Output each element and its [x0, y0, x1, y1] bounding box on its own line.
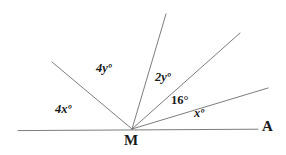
baseline-ray [18, 129, 258, 130]
geometry-diagram: 4yº 2yº 16° xº 4xº M A [0, 0, 286, 155]
angle-label-16: 16° [171, 94, 189, 107]
vertex-label-m: M [124, 133, 138, 148]
geometry-figure [0, 0, 286, 155]
angle-label-4x: 4xº [55, 103, 71, 116]
angle-label-4y: 4yº [96, 62, 112, 75]
ray-mid-right [132, 33, 240, 129]
point-label-a: A [262, 119, 273, 134]
angle-label-x: xº [194, 107, 204, 120]
ray-left-upper [52, 62, 132, 129]
angle-label-2y: 2yº [155, 71, 171, 84]
